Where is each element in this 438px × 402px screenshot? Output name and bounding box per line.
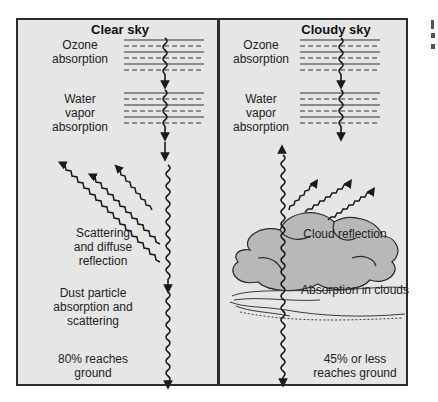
cloud-absorption-label: Absorption in clouds [300, 283, 410, 297]
dust-line3: scattering [38, 314, 148, 328]
cloud [233, 213, 398, 291]
cloud-reflection-label: Cloud reflection [290, 227, 400, 241]
cropped-text-fragment [431, 44, 435, 49]
scattering-label: Scattering and diffuse reflection [48, 226, 158, 268]
water-line3: absorption [226, 120, 296, 134]
dust-line2: absorption and [38, 300, 148, 314]
clear-ground-line2: ground [38, 366, 148, 380]
ozone-line1: Ozone [40, 38, 120, 52]
water-vapor-label-clear: Water vapor absorption [40, 92, 120, 134]
water-line1: Water [226, 92, 296, 106]
cloudy-sky-title: Cloudy sky [276, 22, 396, 37]
water-line1: Water [40, 92, 120, 106]
ozone-line2: absorption [40, 52, 120, 66]
cropped-text-fragment [431, 33, 435, 38]
scatter-line3: reflection [48, 254, 158, 268]
water-line2: vapor [226, 106, 296, 120]
ozone-line2: absorption [226, 52, 296, 66]
cloudy-ground-line2: reaches ground [300, 366, 410, 380]
clear-ground-line1: 80% reaches [38, 352, 148, 366]
ozone-absorption-label-cloudy: Ozone absorption [226, 38, 296, 66]
cloudy-ground-label: 45% or less reaches ground [300, 352, 410, 380]
water-vapor-label-cloudy: Water vapor absorption [226, 92, 296, 134]
scatter-line1: Scattering [48, 226, 158, 240]
water-line3: absorption [40, 120, 120, 134]
ozone-absorption-label-clear: Ozone absorption [40, 38, 120, 66]
water-line2: vapor [40, 106, 120, 120]
ozone-line1: Ozone [226, 38, 296, 52]
cloudy-ground-line1: 45% or less [300, 352, 410, 366]
scatter-line2: and diffuse [48, 240, 158, 254]
dust-line1: Dust particle [38, 286, 148, 300]
clear-sky-title: Clear sky [60, 22, 180, 37]
dust-absorption-label: Dust particle absorption and scattering [38, 286, 148, 328]
cropped-text-fragment [431, 20, 434, 29]
clear-ground-label: 80% reaches ground [38, 352, 148, 380]
